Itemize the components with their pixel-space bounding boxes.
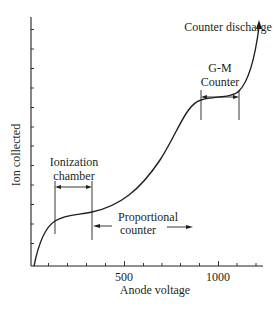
x-ticks xyxy=(49,261,257,266)
label-prop-2: counter xyxy=(110,223,166,237)
arrowhead-ion-left xyxy=(55,185,61,189)
y-axis-label: Ion collected xyxy=(9,115,23,195)
label-gm-1: G-M xyxy=(200,61,240,75)
label-ion-1: Ionization xyxy=(43,155,105,169)
arrowhead-gm-right xyxy=(233,95,239,99)
x-axis-label: Anode voltage xyxy=(100,283,210,297)
label-gm-2: Counter xyxy=(195,75,245,89)
label-prop-1: Proportional xyxy=(108,210,188,224)
label-ion-2: chamber xyxy=(43,169,105,183)
arrowhead-ion-right xyxy=(86,185,92,189)
arrowhead-prop-left xyxy=(93,224,100,228)
plot xyxy=(0,0,278,311)
x-tick-500: 500 xyxy=(109,270,139,284)
label-counter-discharge: Counter discharge xyxy=(178,20,278,34)
arrowhead-prop-right xyxy=(186,225,193,229)
arrowhead-gm-left xyxy=(201,95,207,99)
x-tick-1000: 1000 xyxy=(200,270,236,284)
